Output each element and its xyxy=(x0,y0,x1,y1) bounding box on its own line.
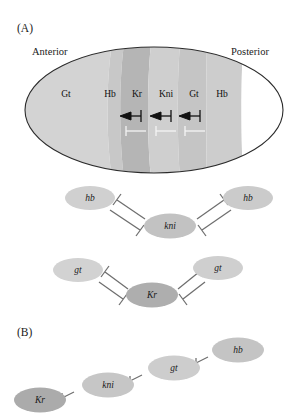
node-kni-label: kni xyxy=(164,221,176,231)
node-hb-left-label: hb xyxy=(85,193,95,203)
domain-label-hb-posterior: Hb xyxy=(216,89,228,99)
panel-a-label: (A) xyxy=(17,22,33,35)
node-gt-right-label: gt xyxy=(214,263,222,273)
node-b-kni-label: kni xyxy=(102,380,114,390)
node-hb-right-label: hb xyxy=(243,193,253,203)
panel-b-label: (B) xyxy=(17,326,33,339)
node-b-gt-label: gt xyxy=(170,363,178,373)
node-b-kr-label: Kr xyxy=(34,395,45,405)
node-gt-left-label: gt xyxy=(74,265,82,275)
domain-label-hb-anterior: Hb xyxy=(104,89,116,99)
node-kr-label: Kr xyxy=(146,290,157,300)
domain-label-kr: Kr xyxy=(132,89,143,99)
domain-label-gt-anterior: Gt xyxy=(61,89,71,99)
node-b-hb-label: hb xyxy=(233,345,243,355)
band-gt-posterior xyxy=(178,44,207,178)
figure-root: (A) Anterior Posterior Gt Hb Kr Kni xyxy=(0,0,304,417)
gap-gene-network-figure: (A) Anterior Posterior Gt Hb Kr Kni xyxy=(0,0,304,417)
anterior-label: Anterior xyxy=(32,46,68,57)
domain-label-gt-posterior: Gt xyxy=(189,89,199,99)
band-kni xyxy=(148,44,180,178)
domain-label-kni: Kni xyxy=(159,89,174,99)
band-kr xyxy=(120,44,151,178)
posterior-label: Posterior xyxy=(231,46,269,57)
